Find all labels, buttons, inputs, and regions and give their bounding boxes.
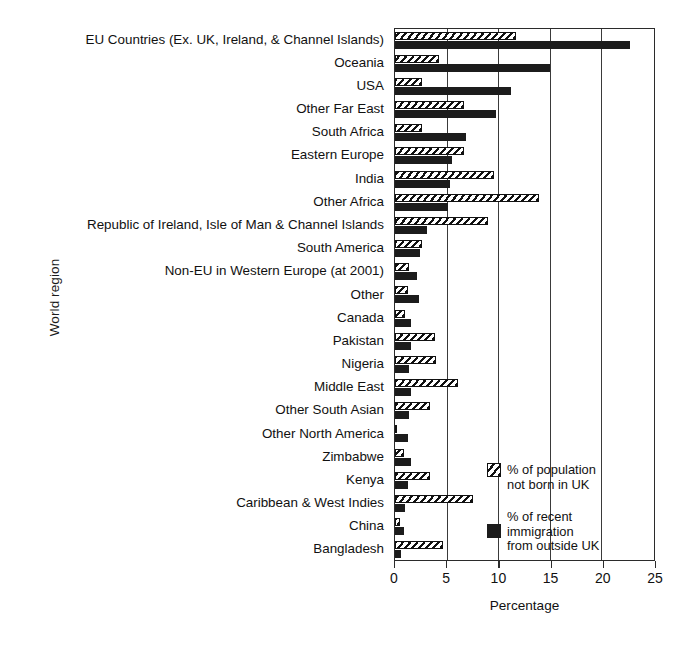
bar-recent-immigration [395,527,404,535]
category-label: USA [356,78,384,93]
bar-recent-immigration [395,64,550,72]
chart-legend: % of population not born in UK % of rece… [487,463,637,565]
category-label: EU Countries (Ex. UK, Ireland, & Channel… [86,32,384,47]
legend-label2-line2: immigration [487,525,637,540]
bar-population-not-born-in-uk [395,101,464,109]
category-label: Other Far East [296,101,384,116]
bar-population-not-born-in-uk [395,55,439,63]
legend-label2-line3: from outside UK [487,539,637,554]
category-label: Bangladesh [313,541,384,556]
category-label: China [349,518,384,533]
category-label: Republic of Ireland, Isle of Man & Chann… [87,217,384,232]
bar-population-not-born-in-uk [395,310,405,318]
x-tick-label: 20 [595,570,611,586]
bar-recent-immigration [395,295,419,303]
category-label: Non-EU in Western Europe (at 2001) [165,263,384,278]
x-axis-title: Percentage [394,598,655,613]
x-axis: 0510152025 [394,561,655,601]
bar-recent-immigration [395,365,409,373]
category-label: Eastern Europe [291,147,384,162]
bar-population-not-born-in-uk [395,541,443,549]
bar-recent-immigration [395,203,448,211]
category-label: Kenya [346,472,384,487]
category-label: Nigeria [342,356,384,371]
bar-population-not-born-in-uk [395,171,494,179]
category-label: Other [351,287,385,302]
bar-recent-immigration [395,272,417,280]
bar-population-not-born-in-uk [395,147,464,155]
legend-label-line2: not born in UK [487,478,637,493]
bar-population-not-born-in-uk [395,449,404,457]
legend-swatch-hatched-icon [487,463,501,477]
x-tick [446,561,447,568]
bar-recent-immigration [395,481,408,489]
bar-recent-immigration [395,156,452,164]
bar-population-not-born-in-uk [395,472,430,480]
bar-population-not-born-in-uk [395,78,422,86]
category-label: Oceania [334,55,384,70]
category-label: Canada [337,310,384,325]
x-tick-label: 0 [390,570,398,586]
bar-population-not-born-in-uk [395,286,408,294]
bar-recent-immigration [395,226,427,234]
x-tick-label: 10 [491,570,507,586]
legend-label-line1: % of population [487,463,637,478]
category-label: Other North America [262,426,384,441]
bar-recent-immigration [395,504,405,512]
x-tick-label: 15 [543,570,559,586]
bar-recent-immigration [395,133,466,141]
legend-swatch-solid-icon [487,524,501,538]
bar-recent-immigration [395,388,411,396]
x-tick-label: 25 [647,570,663,586]
bar-recent-immigration [395,342,411,350]
category-label: Pakistan [333,333,384,348]
chart-figure: World region EU Countries (Ex. UK, Irela… [0,0,694,647]
bar-recent-immigration [395,550,401,558]
x-tick [394,561,395,568]
bar-population-not-born-in-uk [395,32,516,40]
bar-recent-immigration [395,180,450,188]
bar-recent-immigration [395,319,411,327]
bar-population-not-born-in-uk [395,518,400,526]
bar-population-not-born-in-uk [395,379,458,387]
bar-population-not-born-in-uk [395,124,422,132]
bar-recent-immigration [395,249,420,257]
bar-recent-immigration [395,41,630,49]
bar-recent-immigration [395,434,408,442]
bar-population-not-born-in-uk [395,333,435,341]
category-label-column: EU Countries (Ex. UK, Ireland, & Channel… [0,28,390,561]
bar-recent-immigration [395,411,409,419]
category-label: India [355,171,384,186]
legend-entry-immigration: % of recent immigration from outside UK [487,510,637,554]
bar-population-not-born-in-uk [395,495,473,503]
bar-population-not-born-in-uk [395,402,430,410]
bar-recent-immigration [395,458,411,466]
category-label: South Africa [312,124,384,139]
category-label: Middle East [314,379,384,394]
legend-label2-line1: % of recent [487,510,637,525]
bar-recent-immigration [395,87,511,95]
legend-entry-population: % of population not born in UK [487,463,637,492]
x-tick [655,561,656,568]
x-tick-label: 5 [442,570,450,586]
bar-population-not-born-in-uk [395,425,397,433]
bar-population-not-born-in-uk [395,263,409,271]
bar-population-not-born-in-uk [395,194,539,202]
bar-recent-immigration [395,110,496,118]
category-label: Other South Asian [275,402,384,417]
bar-population-not-born-in-uk [395,217,488,225]
category-label: Other Africa [313,194,384,209]
category-label: Caribbean & West Indies [236,495,384,510]
bar-population-not-born-in-uk [395,240,422,248]
category-label: South America [297,240,384,255]
bar-population-not-born-in-uk [395,356,436,364]
category-label: Zimbabwe [322,449,384,464]
